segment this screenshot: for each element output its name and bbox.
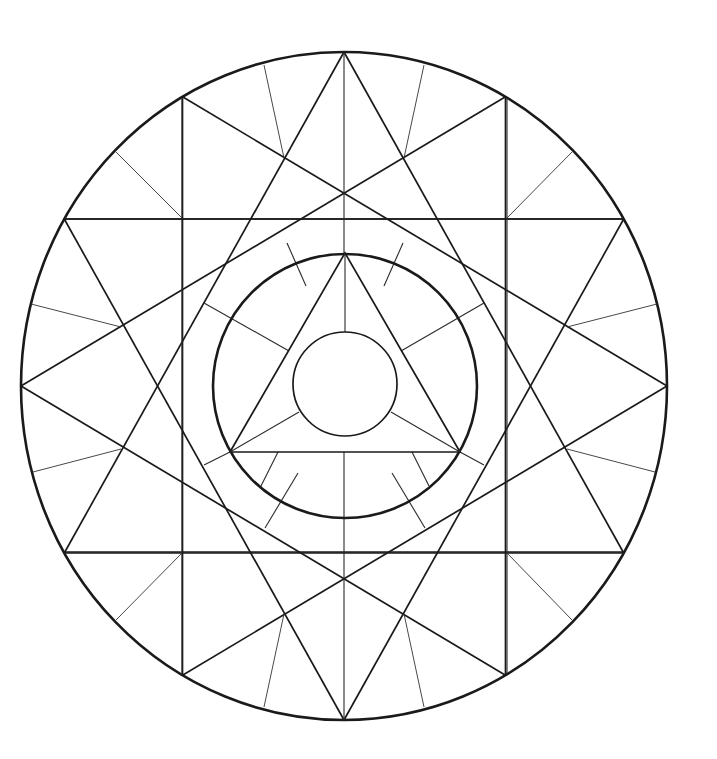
mandala-drawing <box>0 0 717 759</box>
background <box>0 0 717 759</box>
mandala-canvas: Geometric mandala coloring page <box>0 0 717 759</box>
